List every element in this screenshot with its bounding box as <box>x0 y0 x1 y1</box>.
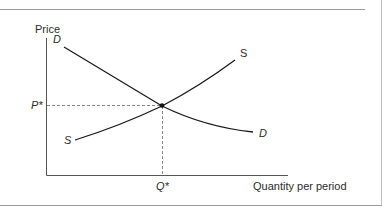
demand-label-end: D <box>259 128 267 139</box>
supply-label-start: S <box>64 135 71 146</box>
demand-curve <box>64 47 253 132</box>
supply-label-end: S <box>240 48 247 59</box>
x-axis-label: Quantity per period <box>253 181 347 192</box>
supply-curve <box>75 60 235 140</box>
equilibrium-quantity-label: Q* <box>156 181 169 192</box>
demand-label-start: D <box>53 34 61 45</box>
equilibrium-point <box>160 103 165 108</box>
supply-demand-figure: Price Quantity per period D D S S P* Q* <box>0 0 389 212</box>
equilibrium-price-label: P* <box>31 100 43 111</box>
